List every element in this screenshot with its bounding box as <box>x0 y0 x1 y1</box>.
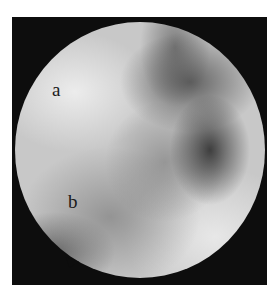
label-a: a <box>52 80 60 99</box>
label-b: b <box>68 192 78 211</box>
image-frame <box>12 17 267 285</box>
endoscopic-view <box>15 22 265 278</box>
